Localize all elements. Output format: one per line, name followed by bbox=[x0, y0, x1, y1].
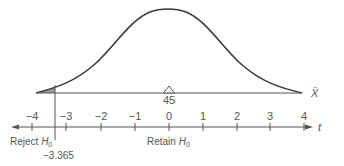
tick-label: 3 bbox=[267, 110, 273, 122]
t-axis-tick-labels: −4 −3 −2 −1 0 1 2 3 4 bbox=[26, 110, 307, 122]
retain-region-label: Retain H0 bbox=[147, 136, 190, 148]
t-axis-right-arrow-icon bbox=[305, 125, 313, 130]
tick-label: −1 bbox=[129, 110, 142, 122]
reject-region-label: Reject H0 bbox=[10, 136, 52, 148]
critical-value-label: −3.365 bbox=[43, 150, 74, 161]
mean-value-label: 45 bbox=[163, 94, 175, 106]
tick-label: 4 bbox=[301, 110, 307, 122]
tick-label: 0 bbox=[166, 110, 172, 122]
t-distribution-figure: 45 X̄ t −4 −3 −2 −1 0 1 2 3 4 Reject H0 … bbox=[0, 0, 344, 166]
xbar-axis-label: X̄ bbox=[310, 87, 319, 99]
t-axis-label: t bbox=[318, 121, 322, 133]
tick-label: −3 bbox=[60, 110, 73, 122]
tick-label: −2 bbox=[95, 110, 108, 122]
t-axis-left-arrow-icon bbox=[11, 125, 19, 130]
distribution-curve bbox=[36, 9, 302, 93]
mean-triangle-icon bbox=[164, 86, 175, 93]
tick-label: 2 bbox=[234, 110, 240, 122]
tick-label: 1 bbox=[200, 110, 206, 122]
tick-label: −4 bbox=[26, 110, 39, 122]
